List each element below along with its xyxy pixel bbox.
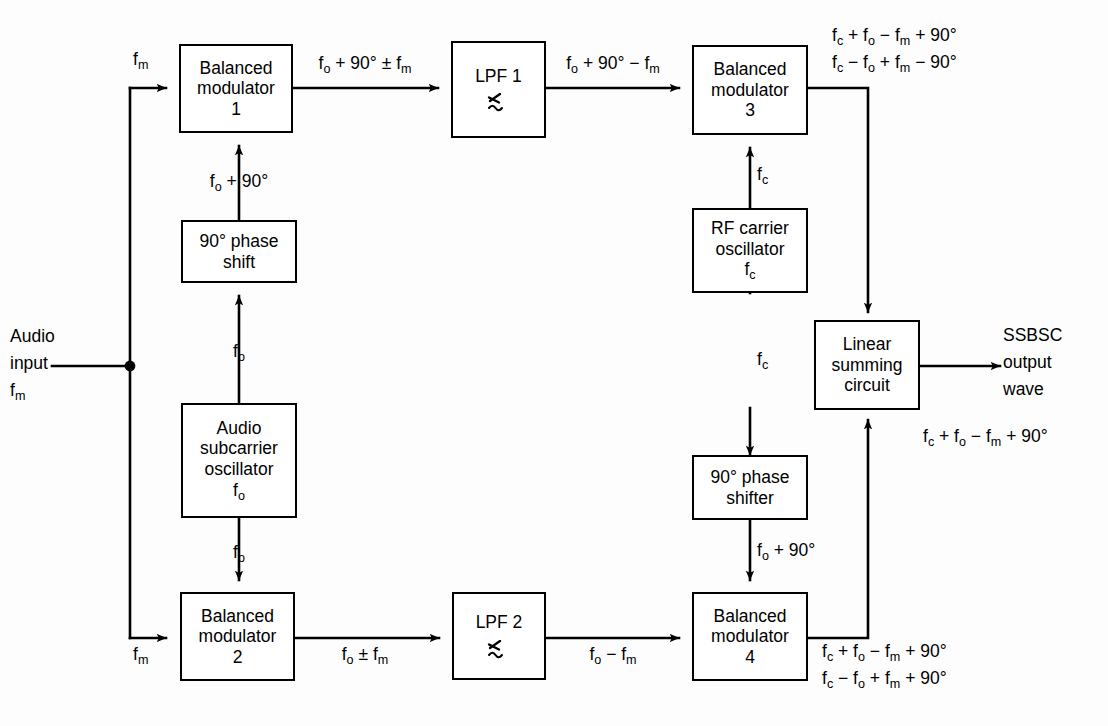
bm4-line1: Balanced [714, 606, 787, 627]
label-bm4-output-2: fc − fo + fm + 90° [822, 667, 947, 692]
lpf1-label: LPF 1 [475, 66, 522, 87]
ps-right-line2: shifter [726, 488, 774, 509]
label-bm3-output-2: fc − fo + fm − 90° [832, 51, 957, 76]
label-fm-top: fm [133, 48, 148, 73]
label-fo-plus-90-right: fo + 90° [757, 539, 815, 564]
ps-left-line1: 90° phase [199, 231, 278, 252]
lsc-line3: circuit [844, 375, 890, 396]
aso-line3: oscillator [204, 459, 273, 480]
bm1-line3: 1 [231, 99, 241, 120]
label-audio-input-line2: input [10, 352, 48, 374]
bm1-line2: modulator [197, 78, 275, 99]
block-90-phase-shifter-right[interactable]: 90° phase shifter [692, 455, 808, 520]
ps-left-line2: shift [223, 252, 255, 273]
label-output-line1: SSBSC [1003, 324, 1062, 346]
block-lpf-1[interactable]: LPF 1 [451, 41, 546, 138]
label-fc-to-bm3: fc [757, 163, 768, 188]
bm3-line2: modulator [711, 80, 789, 101]
label-fo-to-phase-shift: fo [233, 340, 245, 365]
lpf2-label: LPF 2 [476, 612, 523, 633]
aso-line1: Audio [217, 418, 262, 439]
block-balanced-modulator-2[interactable]: Balanced modulator 2 [180, 592, 295, 681]
bm2-line3: 2 [233, 647, 243, 668]
label-bm4-output-1: fc + fo − fm + 90° [822, 640, 947, 665]
block-balanced-modulator-4[interactable]: Balanced modulator 4 [692, 592, 808, 681]
label-output-line2: output [1003, 351, 1052, 373]
rfo-line2: oscillator [715, 239, 784, 260]
bm2-line2: modulator [199, 626, 277, 647]
block-balanced-modulator-3[interactable]: Balanced modulator 3 [692, 45, 808, 135]
label-fc-to-shifter: fc [757, 348, 768, 373]
bm1-line1: Balanced [200, 58, 273, 79]
block-balanced-modulator-1[interactable]: Balanced modulator 1 [179, 44, 293, 133]
bm3-line1: Balanced [714, 59, 787, 80]
wire-layer [0, 0, 1108, 726]
lsc-line2: summing [832, 355, 903, 376]
lsc-line1: Linear [843, 334, 892, 355]
bm3-line3: 3 [745, 100, 755, 121]
label-audio-input-line1: Audio [10, 325, 55, 347]
lowpass-filter-response-icon [486, 640, 512, 660]
block-lpf-2[interactable]: LPF 2 [452, 592, 546, 680]
label-output-expression: fc + fo − fm + 90° [923, 425, 1048, 450]
label-lpf2-output: fo − fm [589, 643, 636, 668]
lowpass-filter-response-icon [486, 93, 512, 113]
wire-bm4-to-summer [808, 420, 868, 638]
block-rf-carrier-oscillator[interactable]: RF carrier oscillator fc [692, 208, 808, 293]
label-fo-to-bm2: fo [233, 541, 245, 566]
aso-line2: subcarrier [200, 438, 278, 459]
label-lpf1-output: fo + 90° − fm [566, 52, 660, 77]
bm4-line2: modulator [711, 626, 789, 647]
label-fm-bottom: fm [133, 643, 148, 668]
rfo-line3: fc [744, 259, 755, 282]
block-diagram-canvas: Balanced modulator 1 LPF 1 Balanced modu… [0, 0, 1108, 726]
block-linear-summing-circuit[interactable]: Linear summing circuit [814, 320, 920, 410]
block-90-phase-shift-left[interactable]: 90° phase shift [181, 220, 297, 283]
rfo-line1: RF carrier [711, 218, 789, 239]
label-output-line3: wave [1003, 378, 1044, 400]
label-bm3-output-1: fc + fo − fm + 90° [832, 24, 957, 49]
bm2-line1: Balanced [201, 606, 274, 627]
ps-right-line1: 90° phase [710, 467, 789, 488]
label-bm1-output: fo + 90° ± fm [319, 52, 412, 77]
label-bm2-output: fo ± fm [342, 643, 389, 668]
wire-bm3-to-summer [808, 88, 868, 312]
bm4-line3: 4 [745, 647, 755, 668]
block-audio-subcarrier-oscillator[interactable]: Audio subcarrier oscillator fo [181, 403, 297, 518]
aso-line4: fo [233, 480, 245, 503]
junction-dot-icon [125, 361, 136, 372]
label-audio-input-line3: fm [10, 379, 25, 404]
label-fo-plus-90-left: fo + 90° [210, 170, 268, 195]
